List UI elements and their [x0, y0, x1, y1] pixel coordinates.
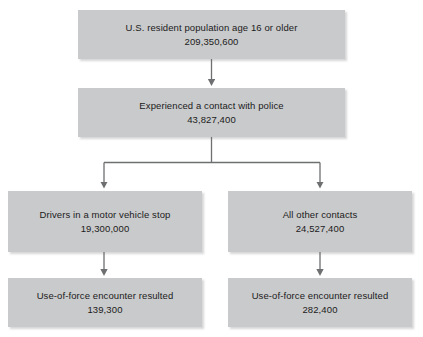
- node-vehicle-stop-value: 19,300,000: [81, 222, 130, 236]
- node-other-contacts-value: 24,527,400: [296, 222, 345, 236]
- node-contact-with-police-label: Experienced a contact with police: [139, 99, 283, 113]
- flowchart-diagram: U.S. resident population age 16 or older…: [0, 0, 423, 337]
- node-population: U.S. resident population age 16 or older…: [78, 10, 345, 59]
- node-vehicle-stop-label: Drivers in a motor vehicle stop: [40, 208, 171, 222]
- node-use-of-force-vehicle-stop: Use-of-force encounter resulted 139,300: [8, 278, 202, 327]
- node-use-of-force-vehicle-stop-value: 139,300: [87, 303, 122, 317]
- node-use-of-force-vehicle-stop-label: Use-of-force encounter resulted: [37, 289, 174, 303]
- node-vehicle-stop: Drivers in a motor vehicle stop 19,300,0…: [8, 191, 202, 252]
- node-other-contacts-label: All other contacts: [283, 208, 358, 222]
- node-use-of-force-other-contacts-value: 282,400: [302, 303, 337, 317]
- node-use-of-force-other-contacts-label: Use-of-force encounter resulted: [252, 289, 389, 303]
- node-other-contacts: All other contacts 24,527,400: [228, 191, 412, 252]
- edge-contact-split: [104, 137, 320, 163]
- node-population-value: 209,350,600: [185, 35, 239, 49]
- node-population-label: U.S. resident population age 16 or older: [126, 21, 298, 35]
- node-use-of-force-other-contacts: Use-of-force encounter resulted 282,400: [228, 278, 412, 327]
- node-contact-with-police-value: 43,827,400: [187, 113, 236, 127]
- node-contact-with-police: Experienced a contact with police 43,827…: [78, 88, 345, 137]
